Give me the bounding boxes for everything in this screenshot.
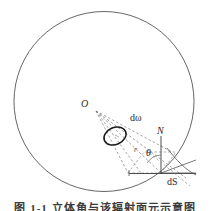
label-radius: r <box>134 146 137 154</box>
diagram-canvas <box>0 0 210 211</box>
label-surface-element: dS <box>167 177 178 187</box>
patch-center-tick <box>115 135 119 137</box>
label-angle-theta: θ <box>146 148 151 158</box>
figure-container: O dω N r θ dS 图 1-1 立体角与该辐射面元示意图 <box>0 0 210 211</box>
figure-caption: 图 1-1 立体角与该辐射面元示意图 <box>0 199 210 211</box>
label-point-o: O <box>81 99 88 109</box>
label-solid-angle: dω <box>130 113 142 123</box>
cone-ray-left <box>96 111 128 173</box>
solid-angle-patch <box>101 124 129 149</box>
label-normal: N <box>157 126 164 136</box>
